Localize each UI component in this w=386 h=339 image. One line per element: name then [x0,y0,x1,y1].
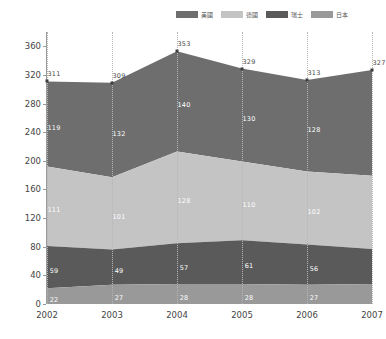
segment-value-label: 49 [375,266,384,274]
segment-value-label: 140 [177,101,190,109]
y-axis-tick-mark [43,218,46,219]
segment-value-label: 148 [372,123,385,131]
y-axis-tick-label: 360 [25,41,41,51]
total-value-label: 311 [47,70,60,78]
total-marker [176,50,179,53]
legend-label: 日本 [336,11,348,18]
legend-swatch-icon [266,11,288,18]
y-axis-tick-label: 80 [30,242,41,252]
legend-item[interactable]: 美國 [176,11,213,18]
total-marker [371,68,374,71]
legend-label: 美國 [201,11,213,18]
segment-value-label: 130 [242,115,255,123]
total-marker [306,78,309,81]
segment-value-label: 28 [375,294,384,302]
legend-item[interactable]: 日本 [311,11,348,18]
total-value-label: 329 [242,58,255,66]
segment-value-label: 111 [47,206,60,214]
plot-area: 0408012016020024028032036020022003200420… [46,32,373,304]
legend-label: 瑞士 [291,11,303,18]
y-axis-tick-label: 200 [25,156,41,166]
y-axis-tick-label: 280 [25,99,41,109]
gridline-vertical [242,32,243,304]
segment-value-label: 56 [310,265,319,273]
segment-value-label: 59 [50,267,59,275]
segment-value-label: 22 [50,296,59,304]
segment-value-label: 102 [372,212,385,220]
total-value-label: 309 [112,72,125,80]
segment-value-label: 119 [47,124,60,132]
y-axis-tick-label: 160 [25,184,41,194]
x-axis-tick-label: 2005 [231,310,253,320]
segment-value-label: 128 [307,126,320,134]
y-axis-tick-label: 240 [25,127,41,137]
legend-label: 德國 [246,11,258,18]
segment-value-label: 27 [115,294,124,302]
x-axis-tick-label: 2002 [36,310,58,320]
legend-item[interactable]: 瑞士 [266,11,303,18]
y-axis-tick-label: 120 [25,213,41,223]
gridline-vertical [372,32,373,304]
legend-swatch-icon [221,11,243,18]
total-value-label: 327 [372,59,385,67]
segment-value-label: 28 [180,294,189,302]
y-axis-tick-mark [43,132,46,133]
y-axis-tick-mark [43,247,46,248]
area-band [47,284,372,304]
y-axis-tick-label: 320 [25,70,41,80]
segment-value-label: 28 [245,294,254,302]
legend-item[interactable]: 德國 [221,11,258,18]
stacked-area-chart: 美國德國瑞士日本 0408012016020024028032036020022… [0,0,386,339]
segment-value-label: 132 [112,130,125,138]
total-marker [241,67,244,70]
gridline-vertical [177,32,178,304]
x-axis-tick-label: 2004 [166,310,188,320]
y-axis-tick-label: 40 [30,270,41,280]
x-axis-tick-label: 2007 [361,310,383,320]
y-axis-tick-mark [43,189,46,190]
y-axis-tick-mark [43,75,46,76]
x-axis-tick-label: 2006 [296,310,318,320]
segment-value-label: 27 [310,294,319,302]
segment-value-label: 110 [242,201,255,209]
x-axis-tick-label: 2003 [101,310,123,320]
segment-value-label: 49 [115,267,124,275]
area-series-group [46,32,373,304]
total-marker [111,81,114,84]
y-axis-tick-label: 0 [36,299,41,309]
total-value-label: 313 [307,69,320,77]
y-axis-tick-mark [43,161,46,162]
y-axis-tick-mark [43,304,46,305]
y-axis-tick-mark [43,46,46,47]
chart-legend: 美國德國瑞士日本 [176,11,348,18]
total-marker [46,80,49,83]
segment-value-label: 57 [180,264,189,272]
segment-value-label: 102 [307,208,320,216]
legend-swatch-icon [311,11,333,18]
segment-value-label: 61 [245,262,254,270]
segment-value-label: 101 [112,213,125,221]
segment-value-label: 128 [177,197,190,205]
legend-swatch-icon [176,11,198,18]
y-axis-tick-mark [43,104,46,105]
total-value-label: 353 [177,40,190,48]
y-axis-tick-mark [43,275,46,276]
